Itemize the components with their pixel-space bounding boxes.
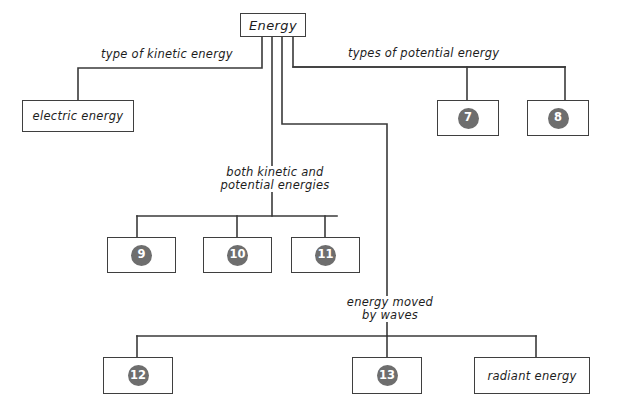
connector-lines [0, 0, 617, 416]
node-7[interactable]: 7 [437, 100, 499, 136]
edge-label-potential: types of potential energy [345, 47, 502, 60]
node-radiant-energy[interactable]: radiant energy [474, 357, 590, 394]
node-12-badge: 12 [128, 365, 149, 386]
node-9[interactable]: 9 [107, 237, 176, 273]
node-root-energy-label: Energy [249, 18, 297, 33]
node-12[interactable]: 12 [103, 357, 173, 394]
node-11[interactable]: 11 [291, 237, 360, 273]
node-electric-energy-label: electric energy [33, 109, 124, 123]
diagram-canvas: Energy type of kinetic energy types of p… [0, 0, 617, 416]
node-8[interactable]: 8 [527, 100, 589, 136]
node-root-energy[interactable]: Energy [240, 13, 306, 37]
node-10-badge: 10 [227, 245, 248, 266]
node-9-badge: 9 [131, 245, 152, 266]
edge-label-both: both kinetic and potential energies [206, 166, 344, 192]
node-13[interactable]: 13 [352, 357, 422, 394]
node-11-badge: 11 [315, 245, 336, 266]
edge-root-to-electric-energy [78, 36, 262, 100]
node-electric-energy[interactable]: electric energy [22, 100, 134, 132]
node-7-badge: 7 [458, 108, 479, 129]
edge-label-kinetic: type of kinetic energy [98, 48, 236, 61]
node-13-badge: 13 [377, 365, 398, 386]
edge-label-waves: energy moved by waves [336, 296, 444, 322]
node-radiant-energy-label: radiant energy [487, 369, 576, 383]
node-10[interactable]: 10 [203, 237, 272, 273]
node-8-badge: 8 [548, 108, 569, 129]
